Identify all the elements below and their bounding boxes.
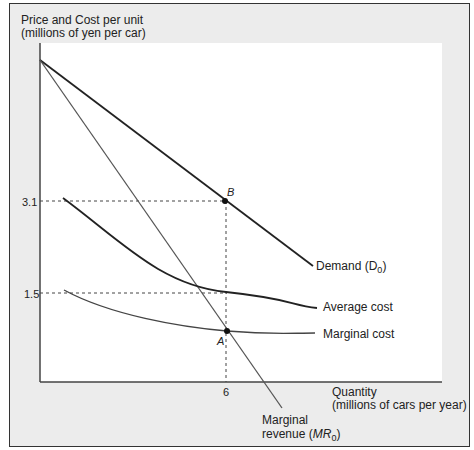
y-label-1: Price and Cost per unit: [21, 13, 144, 27]
y-tick-3-1: 3.1: [22, 196, 37, 208]
y-label-2: (millions of yen per car): [21, 26, 146, 40]
chart-svg: Price and Cost per unit (millions of yen…: [0, 0, 474, 450]
x-label-1: Quantity: [332, 385, 377, 399]
point-a: [224, 328, 230, 334]
point-b: [222, 198, 228, 204]
marginal-cost-label: Marginal cost: [323, 327, 395, 341]
mr-label-2: revenue (MR0): [262, 427, 340, 443]
label-b: B: [227, 186, 234, 198]
label-a: A: [216, 335, 224, 347]
demand-label: Demand (D0): [316, 259, 386, 275]
x-label-2: (millions of cars per year): [332, 398, 467, 412]
average-cost-label: Average cost: [323, 300, 393, 314]
x-tick-6: 6: [223, 386, 229, 398]
y-tick-1-5: 1.5: [24, 288, 39, 300]
mr-label-1: Marginal: [262, 413, 308, 427]
